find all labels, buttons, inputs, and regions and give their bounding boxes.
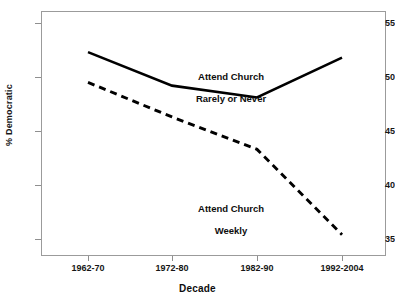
series-annotation-rarely-line2: Rarely or Never bbox=[176, 93, 286, 104]
x-tick-mark-1982-90 bbox=[257, 256, 258, 261]
chart-page: % Democratic 55 50 45 40 35 1962-70 1972… bbox=[0, 0, 395, 304]
series-annotation-weekly-line1: Attend Church bbox=[176, 203, 286, 214]
x-tick-label-1992-2004: 1992-2004 bbox=[297, 263, 387, 273]
y-tick-mark-45 bbox=[35, 131, 41, 132]
x-tick-mark-1992-2004 bbox=[342, 256, 343, 261]
y-tick-label-55: 55 bbox=[371, 19, 395, 28]
x-tick-mark-1972-80 bbox=[172, 256, 173, 261]
x-tick-mark-1962-70 bbox=[88, 256, 89, 261]
y-tick-label-40: 40 bbox=[371, 181, 395, 190]
y-tick-mark-55 bbox=[35, 23, 41, 24]
x-tick-label-1962-70: 1962-70 bbox=[43, 263, 133, 273]
y-tick-label-50: 50 bbox=[371, 73, 395, 82]
y-tick-mark-35 bbox=[35, 239, 41, 240]
chart-title bbox=[0, 0, 395, 5]
y-tick-label-45: 45 bbox=[371, 127, 395, 136]
x-axis-title: Decade bbox=[0, 283, 395, 294]
series-annotation-rarely-or-never: Attend Church Rarely or Never bbox=[176, 60, 286, 115]
y-axis-title: % Democratic bbox=[4, 70, 14, 160]
series-annotation-weekly-line2: Weekly bbox=[176, 225, 286, 236]
x-tick-label-1972-80: 1972-80 bbox=[127, 263, 217, 273]
y-tick-label-35: 35 bbox=[371, 235, 395, 244]
x-tick-label-1982-90: 1982-90 bbox=[212, 263, 302, 273]
y-tick-mark-50 bbox=[35, 77, 41, 78]
series-annotation-weekly: Attend Church Weekly bbox=[176, 192, 286, 247]
y-tick-mark-40 bbox=[35, 185, 41, 186]
series-annotation-rarely-line1: Attend Church bbox=[176, 71, 286, 82]
